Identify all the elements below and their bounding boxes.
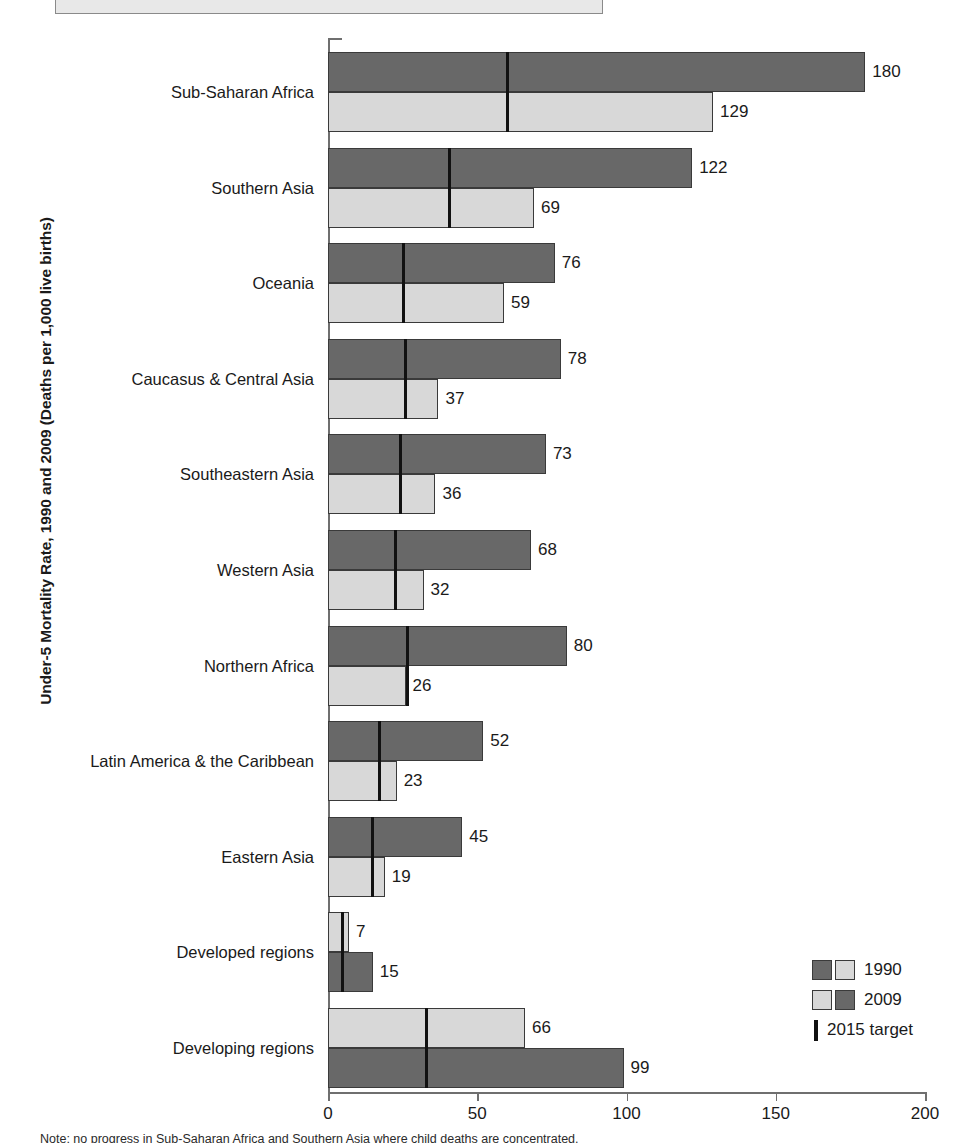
target-marker-2015 [404,339,407,419]
bar-value-label: 36 [435,474,461,514]
target-marker-2015 [378,721,381,801]
bar-value-label: 129 [713,92,748,132]
bar-value-label: 23 [397,761,423,801]
bar-2009 [328,666,406,706]
bar-value-label: 15 [373,952,399,992]
category-label: Sub-Saharan Africa [0,82,314,102]
legend-item-1990: 1990 [812,955,913,985]
bar-2009 [328,474,435,514]
category-label: Developed regions [0,942,314,962]
bar-value-label: 68 [531,530,557,570]
bar-group: 8026 [328,626,925,706]
target-marker-2015 [371,817,374,897]
target-marker-2015 [394,530,397,610]
target-marker-2015 [341,912,344,992]
bar-group: 7659 [328,243,925,323]
bar-value-label: 45 [462,817,488,857]
bar-group: 7336 [328,434,925,514]
bar-group: 5223 [328,721,925,801]
bar-2009 [328,912,349,952]
category-label: Northern Africa [0,656,314,676]
legend-label-1990: 1990 [855,960,902,980]
bar-value-label: 19 [385,857,411,897]
category-label: Oceania [0,273,314,293]
category-label: Latin America & the Caribbean [0,751,314,771]
x-axis-tick-label: 50 [468,1104,487,1124]
x-axis-tick-label: 200 [911,1104,939,1124]
legend-swatch-light-2009 [812,990,832,1010]
bar-value-label: 37 [438,379,464,419]
bar-1990 [328,434,546,474]
bar-value-label: 99 [624,1048,650,1088]
bar-value-label: 7 [349,912,365,952]
x-axis-tick-label: 0 [323,1104,332,1124]
bar-value-label: 122 [692,148,727,188]
bar-group: 180129 [328,52,925,132]
bar-2009 [328,761,397,801]
legend-item-2015-target: 2015 target [812,1015,913,1045]
category-label: Eastern Asia [0,847,314,867]
target-marker-2015 [448,148,451,228]
y-axis-top-cap [328,38,342,40]
bar-1990 [328,243,555,283]
target-marker-2015 [399,434,402,514]
category-label: Southeastern Asia [0,464,314,484]
target-marker-2015 [402,243,405,323]
chart-plot-area: 0501001502001801291226976597837733668328… [328,38,925,1092]
x-axis-tick [627,1092,629,1101]
bar-value-label: 78 [561,339,587,379]
x-axis-tick [328,1092,330,1101]
bar-value-label: 52 [483,721,509,761]
bar-2009 [328,188,534,228]
x-axis-tick [925,1092,927,1101]
bar-1990 [328,626,567,666]
target-marker-2015 [506,52,509,132]
bar-value-label: 59 [504,283,530,323]
legend-swatch-dark-1990 [812,960,832,980]
chart-footnote: Note: no progress in Sub-Saharan Africa … [40,1132,940,1143]
x-axis-tick-label: 100 [612,1104,640,1124]
legend-swatch-light-1990 [835,960,855,980]
target-marker-2015 [425,1008,428,1088]
legend-label-2009: 2009 [855,990,902,1010]
bar-value-label: 76 [555,243,581,283]
category-label: Western Asia [0,560,314,580]
bar-2009 [328,570,424,610]
bar-group: 12269 [328,148,925,228]
bar-1990 [328,530,531,570]
bar-2009 [328,92,713,132]
x-axis-tick-label: 150 [762,1104,790,1124]
category-label: Southern Asia [0,178,314,198]
bar-1990 [328,817,462,857]
bar-value-label: 69 [534,188,560,228]
bar-1990 [328,1048,624,1088]
bar-2009 [328,379,438,419]
bar-1990 [328,148,692,188]
legend-swatch-dark-2009 [835,990,855,1010]
category-label: Caucasus & Central Asia [0,369,314,389]
bar-group: 7837 [328,339,925,419]
bar-group: 6832 [328,530,925,610]
bar-value-label: 26 [406,666,432,706]
bar-2009 [328,857,385,897]
target-marker-2015 [406,626,409,706]
legend-label-2015-target: 2015 target [818,1020,913,1040]
bar-value-label: 32 [424,570,450,610]
bar-group: 4519 [328,817,925,897]
legend-item-2009: 2009 [812,985,913,1015]
x-axis-tick [477,1092,479,1101]
bar-1990 [328,339,561,379]
bar-value-label: 73 [546,434,572,474]
category-label: Developing regions [0,1038,314,1058]
bar-1990 [328,52,865,92]
bar-value-label: 180 [865,52,900,92]
top-cropped-panel [55,0,603,14]
bar-1990 [328,721,483,761]
bar-2009 [328,283,504,323]
bar-value-label: 80 [567,626,593,666]
x-axis-tick [776,1092,778,1101]
bar-value-label: 66 [525,1008,551,1048]
chart-legend: 1990 2009 2015 target [812,955,913,1045]
bar-1990 [328,952,373,992]
